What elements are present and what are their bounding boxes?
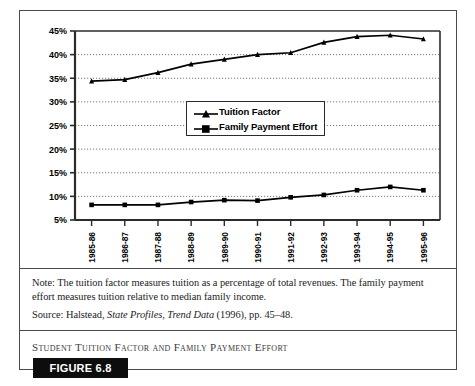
y-tick-label: 40% bbox=[49, 50, 67, 60]
square-marker-icon bbox=[193, 121, 219, 133]
legend-item-tuition-factor: Tuition Factor bbox=[187, 104, 324, 119]
source-prefix: Source: Halstead, bbox=[32, 309, 107, 320]
figure-caption: Student Tuition Factor and Family Paymen… bbox=[32, 341, 288, 353]
line-chart: 45%40%35%30%25%20%15%10%5%1985-861986-87… bbox=[19, 10, 457, 268]
y-tick-label: 25% bbox=[49, 121, 67, 131]
chart-region: 45%40%35%30%25%20%15%10%5%1985-861986-87… bbox=[19, 10, 457, 268]
source-suffix: (1996), pp. 45–48. bbox=[214, 309, 293, 320]
note-block: Note: The tuition factor measures tuitio… bbox=[19, 268, 457, 330]
y-tick-label: 45% bbox=[49, 26, 67, 36]
x-tick-label: 1990-91 bbox=[253, 232, 263, 263]
note-line-1: Note: The tuition factor measures tuitio… bbox=[32, 276, 445, 290]
data-point-marker bbox=[388, 185, 393, 190]
data-point-marker bbox=[189, 200, 194, 205]
source-line: Source: Halstead, State Profiles, Trend … bbox=[32, 308, 445, 322]
data-point-marker bbox=[89, 203, 94, 208]
x-tick-label: 1989-90 bbox=[220, 232, 230, 263]
y-tick-label: 5% bbox=[54, 215, 67, 225]
legend-label-family-payment-effort: Family Payment Effort bbox=[219, 121, 317, 132]
x-tick-label: 1987-88 bbox=[153, 232, 163, 263]
x-tick-label: 1992-93 bbox=[319, 232, 329, 263]
figure-container: 45%40%35%30%25%20%15%10%5%1985-861986-87… bbox=[0, 0, 475, 386]
data-point-marker bbox=[222, 198, 227, 203]
note-line-2: effort measures tuition relative to medi… bbox=[32, 290, 445, 304]
data-point-marker bbox=[122, 203, 127, 208]
x-tick-label: 1988-89 bbox=[186, 232, 196, 263]
x-tick-label: 1986-87 bbox=[120, 232, 130, 263]
x-tick-label: 1994-95 bbox=[385, 232, 395, 263]
figure-number-label: FIGURE 6.8 bbox=[50, 362, 112, 374]
data-point-marker bbox=[322, 193, 327, 198]
data-point-marker bbox=[421, 188, 426, 193]
y-tick-label: 30% bbox=[49, 97, 67, 107]
source-title-italic: State Profiles, Trend Data bbox=[107, 309, 214, 320]
x-tick-label: 1995-96 bbox=[419, 232, 429, 263]
y-tick-label: 35% bbox=[49, 74, 67, 84]
data-point-marker bbox=[255, 198, 260, 203]
series-line-1 bbox=[92, 35, 424, 81]
data-point-marker bbox=[355, 188, 360, 193]
figure-number-tag: FIGURE 6.8 bbox=[33, 358, 128, 378]
triangle-marker-icon bbox=[193, 106, 219, 118]
y-tick-label: 10% bbox=[49, 192, 67, 202]
legend-label-tuition-factor: Tuition Factor bbox=[219, 106, 280, 117]
y-tick-label: 20% bbox=[49, 145, 67, 155]
x-tick-label: 1985-86 bbox=[87, 232, 97, 263]
x-tick-label: 1991-92 bbox=[286, 232, 296, 263]
x-tick-label: 1993-94 bbox=[352, 232, 362, 263]
data-point-marker bbox=[288, 195, 293, 200]
legend-item-family-payment-effort: Family Payment Effort bbox=[187, 119, 324, 134]
data-point-marker bbox=[156, 203, 161, 208]
chart-legend: Tuition Factor Family Payment Effort bbox=[186, 101, 325, 136]
y-tick-label: 15% bbox=[49, 168, 67, 178]
